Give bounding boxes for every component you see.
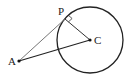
point-C: [88, 38, 91, 41]
label-A: A: [8, 55, 16, 67]
segment-AC: [19, 40, 90, 61]
point-A: [17, 59, 20, 62]
label-C: C: [94, 34, 101, 46]
right-angle-mark: [68, 16, 72, 22]
label-P: P: [58, 5, 64, 17]
diagram: P C A: [0, 0, 133, 81]
geometry-figure: P C A: [0, 0, 133, 81]
segment-PC: [65, 19, 90, 40]
